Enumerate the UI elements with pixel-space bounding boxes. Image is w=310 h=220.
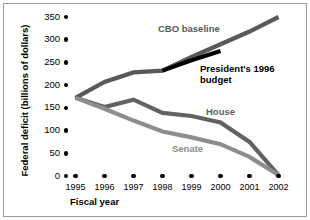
x-tick-dot <box>131 174 136 179</box>
y-tick-label: 150 <box>34 101 60 112</box>
series-label-house: House <box>206 107 235 118</box>
x-axis-title: Fiscal year <box>70 196 119 207</box>
series-label-senate: Senate <box>172 144 203 155</box>
y-tick-dot <box>64 37 69 42</box>
x-tick-dot <box>73 174 78 179</box>
y-axis-title: Federal deficit (billions of dollars) <box>19 16 30 186</box>
x-tick-dot <box>160 174 165 179</box>
series-label-cbo-baseline: CBO baseline <box>158 24 220 35</box>
x-tick-label: 2000 <box>206 182 236 192</box>
series-label-presidents-1996-budget: President's 1996 budget <box>200 64 275 86</box>
x-tick-label: 1997 <box>119 182 149 192</box>
y-tick-dot <box>64 60 69 65</box>
x-tick-dot <box>102 174 107 179</box>
x-tick-dot <box>276 174 281 179</box>
y-tick-label: 350 <box>34 11 60 22</box>
y-tick-label: 50 <box>34 147 60 158</box>
x-tick-label: 1996 <box>90 182 120 192</box>
y-tick-dot <box>64 151 69 156</box>
y-tick-label: 200 <box>34 79 60 90</box>
chart-figure: 050100150200250300350 199519961997199819… <box>0 0 310 220</box>
x-tick-dot <box>247 174 252 179</box>
x-tick-dot <box>189 174 194 179</box>
y-tick-label: 0 <box>34 170 60 181</box>
x-tick-label: 1995 <box>61 182 91 192</box>
x-tick-label: 2001 <box>235 182 265 192</box>
y-tick-label: 250 <box>34 56 60 67</box>
x-tick-dot <box>218 174 223 179</box>
y-tick-dot <box>64 128 69 133</box>
x-tick-label: 2002 <box>264 182 294 192</box>
x-tick-label: 1999 <box>177 182 207 192</box>
y-tick-label: 300 <box>34 33 60 44</box>
y-tick-label: 100 <box>34 124 60 135</box>
x-tick-label: 1998 <box>148 182 178 192</box>
series-line-senate <box>76 98 279 175</box>
